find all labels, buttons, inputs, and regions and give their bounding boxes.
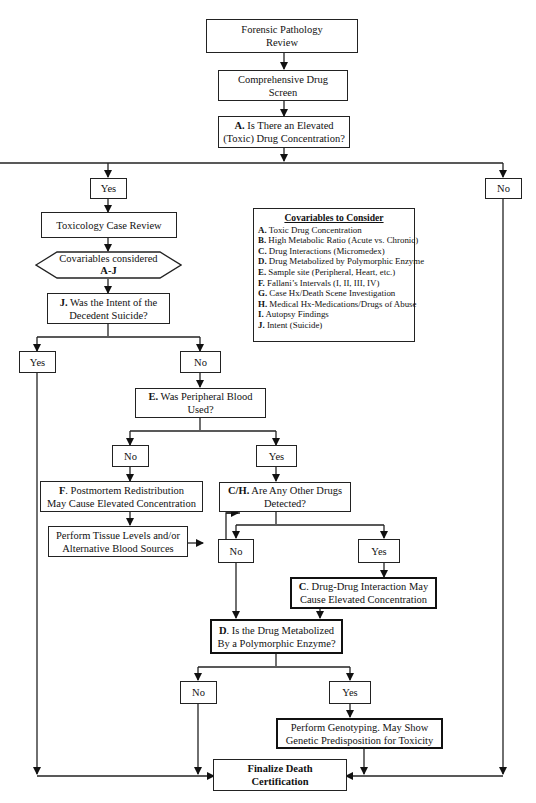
question-j-intent-suicide: J. Was the Intent of theDecedent Suicide… xyxy=(47,293,170,324)
j-yes-box: Yes xyxy=(19,351,56,373)
legend-key: E. xyxy=(258,267,266,277)
legend-item: G. Case Hx/Death Scene Investigation xyxy=(258,288,410,299)
legend-text: Drug Metabolized by Polymorphic Enzyme xyxy=(267,256,425,266)
legend-key: J. xyxy=(258,320,265,330)
node-text: Are Any Other Drugs xyxy=(249,485,342,496)
node-prefix: E. xyxy=(149,391,159,402)
legend-item: F. Fallani’s Intervals (I, II, III, IV) xyxy=(258,278,410,289)
legend-key: D. xyxy=(258,256,267,266)
legend-text: Toxic Drug Concentration xyxy=(267,225,362,235)
node-text: Used? xyxy=(187,404,213,415)
node-text: No xyxy=(192,686,205,699)
node-text: Yes xyxy=(101,182,116,195)
node-text: Yes xyxy=(342,686,357,699)
e-yes-box: Yes xyxy=(256,445,297,467)
forensic-pathology-review-box: Forensic PathologyReview xyxy=(206,19,358,53)
d-yes-box: Yes xyxy=(329,681,371,704)
node-text: No xyxy=(124,450,137,463)
comprehensive-drug-screen-box: Comprehensive DrugScreen xyxy=(218,70,348,101)
node-prefix: A. xyxy=(234,120,244,131)
legend-key: H. xyxy=(258,299,267,309)
node-text: Perform Genotyping. May Show xyxy=(291,722,429,733)
d-no-box: No xyxy=(180,681,217,704)
legend-text: Medical Hx-Medications/Drugs of Abuse xyxy=(267,299,416,309)
legend-key: G. xyxy=(258,288,267,298)
node-text: . Is the Drug Metabolized xyxy=(226,625,334,636)
j-no-box: No xyxy=(180,351,221,373)
a-no-box: No xyxy=(485,178,522,199)
question-ch-other-drugs: C/H. Are Any Other DrugsDetected? xyxy=(219,482,351,512)
legend-key: F. xyxy=(258,278,265,288)
node-text: Yes xyxy=(269,450,284,463)
node-text: Perform Tissue Levels and/or xyxy=(56,530,180,541)
node-text: Is There an Elevated xyxy=(245,120,334,131)
legend-text: Case Hx/Death Scene Investigation xyxy=(267,288,395,298)
legend-item: D. Drug Metabolized by Polymorphic Enzym… xyxy=(258,256,410,267)
legend-text: High Metabolic Ratio (Acute vs. Chronic) xyxy=(266,235,418,245)
legend-item: H. Medical Hx-Medications/Drugs of Abuse xyxy=(258,299,410,310)
c-drug-drug-interaction-box: C. Drug-Drug Interaction MayCause Elevat… xyxy=(290,577,437,609)
legend-item: B. High Metabolic Ratio (Acute vs. Chron… xyxy=(258,235,410,246)
ch-yes-box: Yes xyxy=(358,539,400,563)
node-text: Review xyxy=(266,37,298,48)
finalize-death-certification-box: Finalize DeathCertification xyxy=(213,759,347,791)
legend-item: E. Sample site (Peripheral, Heart, etc.) xyxy=(258,267,410,278)
node-text: (Toxic) Drug Concentration? xyxy=(223,133,345,144)
perform-tissue-levels-box: Perform Tissue Levels and/orAlternative … xyxy=(48,526,188,557)
node-text: Decedent Suicide? xyxy=(69,310,147,321)
node-text: No xyxy=(230,545,243,558)
legend-key: C. xyxy=(258,246,267,256)
node-text: Was the Intent of the xyxy=(68,297,158,308)
node-text: A-J xyxy=(100,265,116,277)
question-a-elevated-concentration: A. Is There an Elevated(Toxic) Drug Conc… xyxy=(218,116,350,148)
legend-text: Drug Interactions (Micromedex) xyxy=(267,246,385,256)
node-text: Yes xyxy=(371,545,386,558)
perform-genotyping-box: Perform Genotyping. May ShowGenetic Pred… xyxy=(276,718,443,749)
covariables-legend: Covariables to Consider A. Toxic Drug Co… xyxy=(253,208,415,342)
legend-item: J. Intent (Suicide) xyxy=(258,320,410,331)
node-text: Finalize Death xyxy=(247,763,312,774)
legend-item: I. Autopsy Findings xyxy=(258,309,410,320)
node-prefix: C/H. xyxy=(228,485,249,496)
node-text: Detected? xyxy=(264,498,306,509)
legend-text: Intent (Suicide) xyxy=(265,320,323,330)
node-text: . Postmortem Redistribution xyxy=(65,485,184,496)
e-no-box: No xyxy=(112,445,149,467)
covariables-considered-hexagon: Covariables consideredA-J xyxy=(35,251,182,279)
node-text: Forensic Pathology xyxy=(241,24,322,35)
f-postmortem-redistribution-box: F. Postmortem RedistributionMay Cause El… xyxy=(40,481,203,512)
node-text: Yes xyxy=(30,356,45,369)
toxicology-case-review-box: Toxicology Case Review xyxy=(41,212,177,238)
legend-text: Sample site (Peripheral, Heart, etc.) xyxy=(266,267,395,277)
legend-title: Covariables to Consider xyxy=(258,213,410,224)
node-text: Toxicology Case Review xyxy=(56,219,161,232)
node-text: Alternative Blood Sources xyxy=(62,543,173,554)
ch-no-box: No xyxy=(218,539,254,563)
a-yes-box: Yes xyxy=(90,178,127,199)
node-text: Cause Elevated Concentration xyxy=(300,594,427,605)
node-text: No xyxy=(194,356,207,369)
node-text: By a Polymorphic Enzyme? xyxy=(217,638,335,649)
node-prefix: J. xyxy=(60,297,68,308)
legend-key: B. xyxy=(258,235,266,245)
node-text: Was Peripheral Blood xyxy=(158,391,252,402)
legend-key: A. xyxy=(258,225,267,235)
node-text: Certification xyxy=(251,776,308,787)
node-text: No xyxy=(497,182,510,195)
node-text: May Cause Elevated Concentration xyxy=(47,498,196,509)
legend-text: Autopsy Findings xyxy=(264,309,329,319)
legend-item: C. Drug Interactions (Micromedex) xyxy=(258,246,410,257)
node-text: Genetic Predisposition for Toxicity xyxy=(286,735,434,746)
node-text: Covariables considered xyxy=(59,253,157,265)
question-e-peripheral-blood: E. Was Peripheral BloodUsed? xyxy=(135,388,266,418)
legend-text: Fallani’s Intervals (I, II, III, IV) xyxy=(265,278,380,288)
node-text: . Drug-Drug Interaction May xyxy=(306,581,428,592)
node-text: Screen xyxy=(269,87,298,98)
question-d-polymorphic-enzyme: D. Is the Drug MetabolizedBy a Polymorph… xyxy=(210,619,343,654)
node-text: Comprehensive Drug xyxy=(238,74,328,85)
legend-item: A. Toxic Drug Concentration xyxy=(258,225,410,236)
